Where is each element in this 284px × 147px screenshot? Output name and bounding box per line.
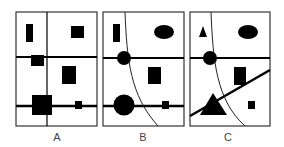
rect-middle-right-shape [148, 67, 161, 84]
panel-b [103, 12, 184, 126]
puzzle-svg [0, 0, 284, 147]
large-circle-shape [114, 95, 135, 116]
circle-on-line-shape [203, 51, 217, 65]
panel-a [16, 12, 97, 126]
tall-bar-shape [26, 24, 33, 42]
rect-middle-right-shape [234, 67, 246, 85]
small-square-shape [162, 101, 169, 109]
small-square-shape [75, 101, 82, 109]
square-top-right-shape [71, 26, 84, 38]
rect-middle-right-shape [62, 66, 76, 84]
small-square-shape [248, 101, 255, 109]
circle-on-line-shape [117, 51, 131, 65]
ellipse-top-right-shape [238, 25, 258, 39]
rect-on-line-shape [31, 55, 44, 66]
ellipse-top-right-shape [154, 25, 174, 39]
panel-c [190, 12, 270, 126]
large-square-shape [32, 95, 52, 115]
panel-label-c: C [224, 131, 232, 143]
tall-bar-shape [113, 24, 120, 42]
panel-label-a: A [53, 131, 60, 143]
puzzle-figure: A B C [0, 0, 284, 147]
panel-label-b: B [139, 131, 146, 143]
